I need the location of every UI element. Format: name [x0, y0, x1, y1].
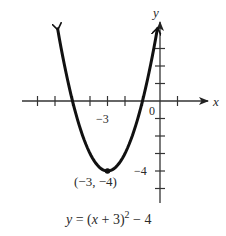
y-axis-label: y — [151, 5, 159, 20]
x-axis-label: x — [212, 94, 219, 109]
equation-label: y = (x + 3)2 − 4 — [64, 209, 151, 228]
x-tick-label: −3 — [96, 112, 109, 126]
origin-label: 0 — [149, 104, 155, 118]
vertex-label: (−3, −4) — [74, 174, 117, 189]
y-tick-label: −4 — [134, 164, 147, 178]
vertex-point — [105, 168, 111, 174]
parabola-graph: x y 0 −3 −4 (−3, −4) y = (x + 3)2 − 4 — [0, 0, 226, 236]
